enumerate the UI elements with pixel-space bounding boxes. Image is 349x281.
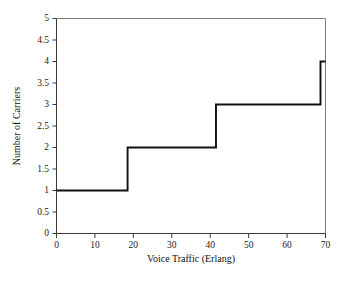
x-tick-label: 60: [282, 240, 292, 250]
y-tick-label: 2.5: [37, 121, 49, 131]
y-axis-title: Number of Carriers: [11, 87, 22, 165]
y-tick-label: 0: [44, 228, 49, 238]
y-tick-label: 2: [44, 142, 49, 152]
x-tick-label: 10: [90, 240, 100, 250]
y-tick-label: 5: [44, 13, 49, 23]
step-chart-plot: 00.511.522.533.544.55 010203040506070 Vo…: [0, 0, 349, 281]
chart-background: [0, 0, 349, 281]
x-tick-label: 30: [167, 240, 177, 250]
x-axis-title: Voice Traffic (Erlang): [147, 253, 235, 265]
y-tick-label: 4: [44, 56, 49, 66]
x-tick-label: 40: [205, 240, 215, 250]
chart-figure: 00.511.522.533.544.55 010203040506070 Vo…: [0, 0, 349, 281]
y-tick-label: 1.5: [37, 164, 49, 174]
y-tick-label: 0.5: [37, 207, 49, 217]
x-tick-label: 0: [54, 240, 59, 250]
x-tick-label: 50: [244, 240, 254, 250]
x-tick-label: 20: [129, 240, 139, 250]
y-tick-label: 3: [44, 99, 49, 109]
y-tick-label: 1: [44, 185, 49, 195]
y-tick-label: 3.5: [37, 78, 49, 88]
x-tick-label: 70: [321, 240, 331, 250]
y-tick-label: 4.5: [37, 35, 49, 45]
